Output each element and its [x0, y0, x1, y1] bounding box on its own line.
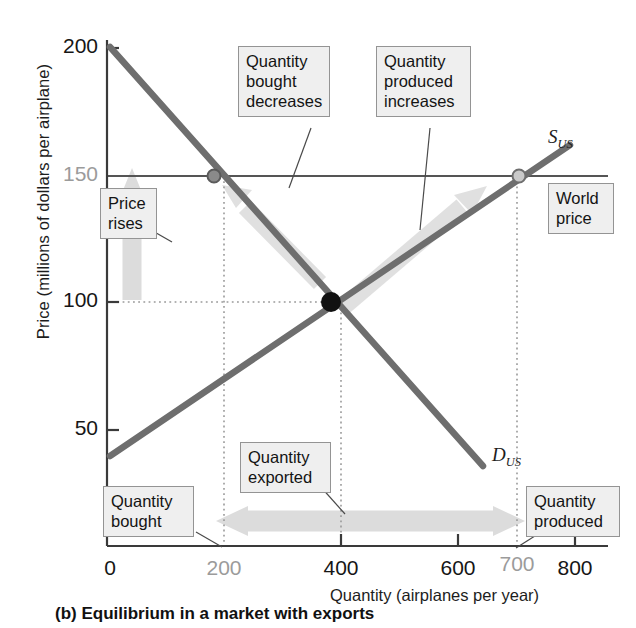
y-tick-200: 200: [38, 34, 98, 58]
callout-price-rises: Price rises: [100, 188, 157, 239]
figure-equilibrium-with-exports: Price (millions of dollars per airplane)…: [0, 0, 636, 628]
supply-curve-label: SUS: [548, 126, 573, 152]
y-tick-100: 100: [38, 288, 98, 312]
supply-label-letter: S: [548, 126, 558, 147]
callout-leader-lines: [151, 128, 576, 548]
callout-world-price: World price: [548, 183, 614, 234]
demand-label-letter: D: [492, 444, 506, 465]
demand-label-subscript: US: [506, 455, 521, 469]
supply-label-subscript: US: [558, 137, 573, 151]
marker-quantity-produced: [513, 170, 526, 183]
marker-quantity-bought: [208, 170, 221, 183]
figure-caption: (b) Equilibrium in a market with exports: [55, 604, 374, 624]
marker-equilibrium-no-trade: [321, 292, 341, 312]
callout-quantity-bought: Quantity bought: [103, 486, 194, 537]
x-axis-label: Quantity (airplanes per year): [330, 586, 539, 605]
y-axis-label: Price (millions of dollars per airplane): [34, 37, 53, 367]
arrow-quantity-exported: [216, 506, 525, 536]
callout-quantity-bought-decreases: Quantity bought decreases: [238, 46, 330, 117]
y-tick-150: 150: [38, 162, 98, 186]
demand-curve-label: DUS: [492, 444, 521, 470]
x-tick-400: 400: [313, 556, 369, 580]
callout-quantity-produced: Quantity produced: [526, 486, 620, 537]
x-tick-600: 600: [430, 556, 486, 580]
x-tick-200: 200: [196, 556, 252, 580]
callout-quantity-produced-increases: Quantity produced increases: [376, 46, 471, 117]
y-tick-marks: [107, 48, 119, 430]
y-tick-50: 50: [38, 416, 98, 440]
x-tick-0: 0: [100, 556, 120, 580]
x-tick-800: 800: [547, 556, 603, 580]
callout-quantity-exported: Quantity exported: [240, 442, 331, 493]
x-tick-700: 700: [489, 552, 545, 576]
